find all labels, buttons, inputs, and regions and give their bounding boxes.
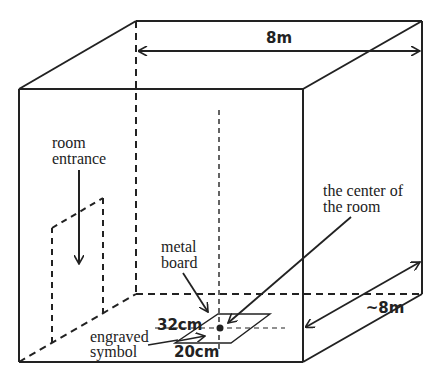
center-dot: [217, 325, 224, 332]
room-diagram: 8m ~8m room entrance the center of the r…: [0, 0, 439, 380]
entrance-door: [52, 198, 103, 343]
depth-label: ~8m: [366, 299, 405, 317]
center-label-line1: the center of: [323, 182, 404, 199]
center-arrow: [228, 217, 351, 323]
metal-board-arrow: [183, 273, 208, 312]
width-label: 8m: [266, 29, 292, 47]
center-label-line2: the room: [323, 198, 381, 215]
metal-board-label-line2: board: [161, 254, 197, 271]
board-length-label: 32cm: [157, 316, 202, 334]
room-entrance-label-line1: room: [52, 134, 86, 151]
board-width-label: 20cm: [174, 343, 219, 361]
engraved-symbol-label-line2: symbol: [90, 343, 138, 361]
room-entrance-label-line2: entrance: [52, 150, 106, 167]
metal-board-label-line1: metal: [161, 238, 197, 255]
